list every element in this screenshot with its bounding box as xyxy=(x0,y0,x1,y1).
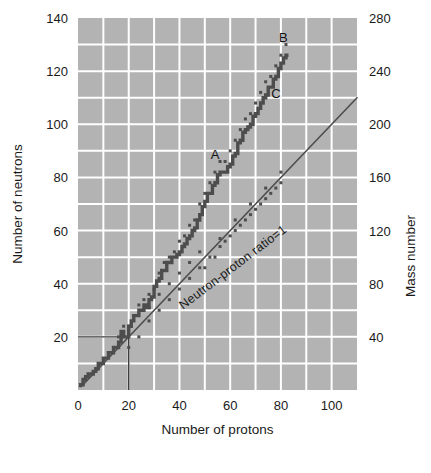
y2-tick-label: 160 xyxy=(369,170,391,185)
stability-band-point xyxy=(148,319,151,322)
stability-band-point xyxy=(168,282,171,285)
stability-band-point xyxy=(203,266,206,269)
stability-band-point xyxy=(117,335,120,338)
stability-band-point xyxy=(137,303,140,306)
annotation-a: A xyxy=(211,147,220,162)
x-axis-title: Number of protons xyxy=(162,422,274,437)
stability-band-point xyxy=(173,250,176,253)
stability-band-point xyxy=(259,91,262,94)
stability-band-point xyxy=(122,325,125,328)
stability-band-point xyxy=(178,272,181,275)
stability-band-point xyxy=(239,128,242,131)
x-axis-tick-labels: 020406080100 xyxy=(74,398,342,413)
stability-band-point xyxy=(274,187,277,190)
x-tick-label: 20 xyxy=(121,398,135,413)
stability-band-point xyxy=(229,149,232,152)
stability-band-point xyxy=(224,240,227,243)
y-tick-label: 120 xyxy=(46,64,68,79)
stability-band-point xyxy=(148,293,151,296)
x-tick-label: 100 xyxy=(321,398,343,413)
stability-band-point xyxy=(213,171,216,174)
stability-band-point xyxy=(249,213,252,216)
y2-tick-label: 240 xyxy=(369,64,391,79)
stability-band-point xyxy=(234,229,237,232)
stability-band-point xyxy=(198,203,201,206)
stability-band-point xyxy=(178,288,181,291)
stability-band-point xyxy=(168,298,171,301)
stability-band-point xyxy=(269,192,272,195)
stability-band-point xyxy=(279,171,282,174)
stability-band-point xyxy=(148,306,151,309)
y2-tick-label: 40 xyxy=(369,330,383,345)
stability-band-point xyxy=(254,102,257,105)
stability-band-point xyxy=(249,112,252,115)
annotation-b: B xyxy=(279,30,288,45)
stability-band-point xyxy=(259,203,262,206)
y-axis-tick-labels: 20406080100120140 xyxy=(46,11,68,345)
stability-band-point xyxy=(188,261,191,264)
stability-band-point xyxy=(279,181,282,184)
stability-band-point xyxy=(178,240,181,243)
y2-tick-label: 80 xyxy=(369,277,383,292)
stability-band-point xyxy=(158,309,161,312)
x-tick-label: 80 xyxy=(274,398,288,413)
stability-band-point xyxy=(127,325,130,328)
stability-band-point xyxy=(264,187,267,190)
stability-band-point xyxy=(229,234,232,237)
stability-band-point xyxy=(163,261,166,264)
stability-band-point xyxy=(219,237,222,240)
stability-band-point xyxy=(208,256,211,259)
x-tick-label: 40 xyxy=(172,398,186,413)
stability-band-point xyxy=(234,218,237,221)
stability-band-point xyxy=(239,224,242,227)
y2-axis-tick-labels: 4080120160200240280 xyxy=(369,11,391,345)
stability-band-point xyxy=(249,203,252,206)
stability-band-point xyxy=(132,314,135,317)
y2-tick-label: 280 xyxy=(369,11,391,26)
y2-tick-label: 120 xyxy=(369,224,391,239)
stability-band-point xyxy=(264,80,267,83)
stability-band-point xyxy=(269,75,272,78)
y-tick-label: 40 xyxy=(54,277,68,292)
stability-band-point xyxy=(158,272,161,275)
y-tick-label: 20 xyxy=(54,330,68,345)
stability-band-point xyxy=(219,245,222,248)
y2-tick-label: 200 xyxy=(369,117,391,132)
x-tick-label: 0 xyxy=(74,398,81,413)
stability-band-point xyxy=(244,218,247,221)
stability-band-point xyxy=(137,335,140,338)
stability-band-point xyxy=(279,54,282,57)
y-tick-label: 80 xyxy=(54,170,68,185)
stability-band-point xyxy=(198,250,201,253)
stability-band-point xyxy=(142,298,145,301)
x-tick-label: 60 xyxy=(223,398,237,413)
stability-band-point xyxy=(274,64,277,67)
stability-band-point xyxy=(264,197,267,200)
stability-band-point xyxy=(198,266,201,269)
stability-band-point xyxy=(213,256,216,259)
y-axis-title: Number of neutrons xyxy=(10,144,25,264)
stability-band-point xyxy=(158,293,161,296)
stability-band-point xyxy=(183,234,186,237)
y-tick-label: 60 xyxy=(54,224,68,239)
annotation-c: C xyxy=(271,86,280,101)
stability-band-point xyxy=(168,256,171,259)
stability-band-point xyxy=(203,192,206,195)
stability-band-point xyxy=(153,288,156,291)
band-of-stability-chart: 020406080100 20406080100120140 408012016… xyxy=(0,0,431,473)
stability-band-point xyxy=(208,181,211,184)
stability-band-point xyxy=(234,139,237,142)
y-tick-label: 140 xyxy=(46,11,68,26)
stability-band-point xyxy=(188,224,191,227)
stability-band-point xyxy=(224,160,227,163)
stability-band-point xyxy=(127,346,130,349)
stability-band-point xyxy=(193,218,196,221)
y2-axis-title: Mass number xyxy=(403,215,418,297)
stability-band-point xyxy=(188,277,191,280)
stability-band-point xyxy=(244,117,247,120)
stability-band-point xyxy=(254,208,257,211)
figure-root: 020406080100 20406080100120140 408012016… xyxy=(0,0,431,473)
y-tick-label: 100 xyxy=(46,117,68,132)
